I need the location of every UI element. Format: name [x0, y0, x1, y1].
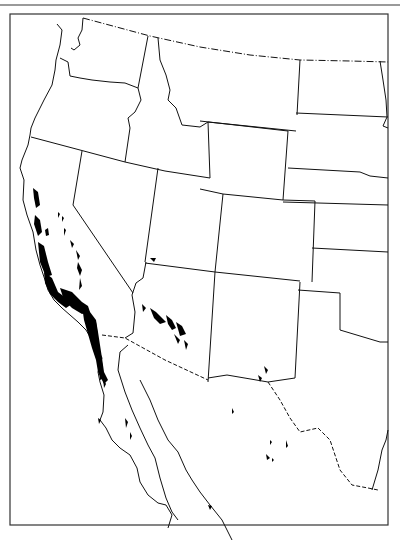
- range-map: Range map, western North America: [0, 0, 400, 547]
- species-range: [33, 188, 288, 510]
- mainland-coast: [200, 492, 232, 540]
- range-az-1: [150, 308, 166, 324]
- nv-ut-border: [145, 168, 158, 262]
- range-az-7: [150, 258, 156, 262]
- puget-sound: [60, 18, 138, 88]
- baja-coast: [98, 345, 388, 540]
- range-sierra-3: [70, 240, 74, 248]
- ut-co-border: [215, 194, 223, 272]
- range-mx-6: [232, 408, 234, 414]
- range-baja-3: [125, 418, 128, 428]
- map-svg: [0, 0, 400, 547]
- sonora-coast: [140, 380, 200, 492]
- range-nv-2: [62, 216, 64, 222]
- az-nm-border: [208, 272, 215, 382]
- boundaries: [20, 18, 388, 382]
- ut-az-border: [145, 263, 300, 281]
- range-sca-peninsular: [82, 306, 108, 384]
- range-nca-3: [38, 242, 52, 277]
- mt-nd-border: [297, 60, 300, 115]
- mexico-border: [102, 335, 378, 490]
- baja-east-coast: [118, 345, 178, 520]
- range-sierra-5: [77, 262, 82, 276]
- range-sierra-4: [76, 250, 80, 260]
- canada-border: [83, 18, 388, 62]
- range-sierra-1: [45, 228, 49, 236]
- range-az-6: [142, 304, 146, 312]
- nm-south-border: [208, 375, 295, 382]
- range-baja-4: [130, 432, 132, 440]
- or-ca-border: [31, 137, 125, 162]
- range-sierra-6: [79, 278, 82, 290]
- sd-ne-border: [288, 168, 388, 178]
- mn-border: [380, 61, 388, 128]
- mt-south-border: [208, 122, 296, 131]
- az-west-border: [125, 262, 146, 338]
- range-mx-4: [286, 440, 288, 448]
- range-mx-3: [272, 458, 274, 462]
- ne-ks-border: [283, 202, 388, 205]
- range-az-2: [166, 315, 176, 330]
- range-nca-2: [34, 215, 42, 236]
- range-az-5: [184, 340, 188, 350]
- range-nca-north: [33, 188, 40, 208]
- gulf-coast-mexico: [372, 430, 388, 490]
- range-az-3: [176, 322, 186, 336]
- wa-id-border: [138, 36, 148, 88]
- pacific-coastline: [20, 24, 102, 358]
- or-id-border: [125, 88, 141, 162]
- range-sierra-2: [64, 228, 66, 236]
- nd-sd-border: [296, 113, 388, 117]
- range-tx-1: [264, 366, 268, 374]
- co-east-border: [283, 200, 315, 282]
- id-mt-border: [158, 38, 208, 127]
- range-mx-1: [270, 440, 272, 445]
- baja-west-coast: [98, 358, 172, 528]
- nm-tx-border: [295, 282, 300, 378]
- ok-panhandle: [298, 290, 388, 342]
- range-az-4: [174, 334, 180, 344]
- ks-ok-border: [312, 248, 388, 252]
- id-south-border: [125, 162, 210, 178]
- range-mx-2: [266, 454, 270, 460]
- range-nv-1: [58, 212, 60, 218]
- ca-nv-border: [73, 151, 133, 293]
- wyoming: [200, 121, 288, 200]
- id-wy-border: [208, 122, 210, 178]
